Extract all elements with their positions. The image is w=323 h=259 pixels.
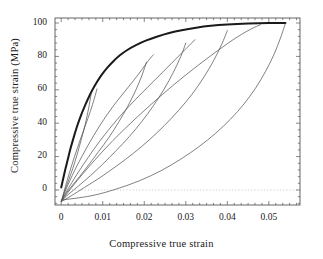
y-tick-label: 60 [0, 83, 47, 93]
x-tick-label: 0.05 [249, 212, 289, 222]
x-tick-label: 0.02 [124, 212, 164, 222]
y-tick-label: 20 [0, 150, 47, 160]
x-tick-label: 0.04 [207, 212, 247, 222]
figure: 020406080100 00.010.020.030.040.05 Compr… [0, 0, 323, 259]
y-tick-label: 80 [0, 50, 47, 60]
y-tick-label: 40 [0, 117, 47, 127]
x-axis-title: Compressive true strain [0, 238, 323, 249]
data-series-layer [61, 23, 285, 202]
x-tick-label: 0.01 [83, 212, 123, 222]
y-axis-title: Compressive true strain (MPa) [9, 6, 20, 206]
x-tick-label: 0 [41, 212, 81, 222]
x-tick-label: 0.03 [166, 212, 206, 222]
y-tick-label: 100 [0, 17, 47, 27]
y-tick-label: 0 [0, 183, 47, 193]
